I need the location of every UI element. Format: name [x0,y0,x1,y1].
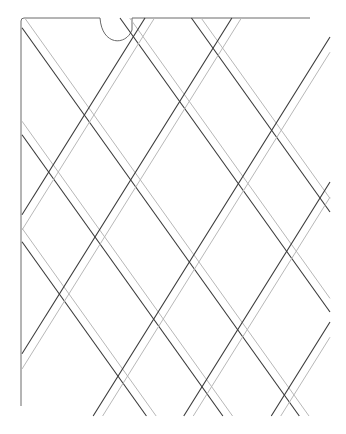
band-line-light [22,18,155,230]
band-line-dark [120,18,330,312]
band-line-dark [271,322,330,416]
band-line-dark [22,135,223,416]
band-line-dark [22,242,146,416]
lattice-figure [0,0,346,434]
band-line-light [130,18,330,298]
band-line-dark [22,18,232,354]
band-line-light [103,52,330,416]
band-line-light [201,18,330,198]
band-line-light [22,18,241,369]
band-line-light [193,197,330,416]
band-line-dark [93,37,330,416]
band-line-dark [22,18,145,215]
frame [21,18,310,406]
band-line-light [22,121,233,416]
lattice-bands [22,18,330,416]
band-line-light [25,18,309,416]
band-line-light [281,337,330,416]
frame-outline [21,18,310,406]
band-line-dark [184,182,330,416]
band-line-dark [191,18,330,212]
lattice-drawing [0,0,346,434]
band-line-dark [22,28,299,416]
